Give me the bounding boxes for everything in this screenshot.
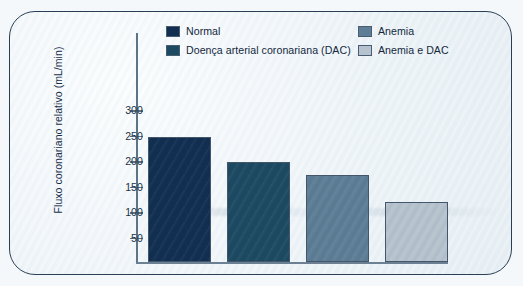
y-axis-title-label: Fluxo coronariano relativo (mL/min) xyxy=(52,30,64,230)
x-axis-line xyxy=(136,262,448,264)
bar-3 xyxy=(306,175,369,262)
legend-label: Doença arterial coronariana (DAC) xyxy=(186,45,351,56)
y-tick-label: 100 xyxy=(109,207,143,217)
bar-2 xyxy=(227,162,290,262)
bar-texture xyxy=(228,163,289,261)
legend-swatch-icon xyxy=(358,26,372,37)
y-tick-label-row: 150 xyxy=(88,182,143,194)
y-axis-title: Fluxo coronariano relativo (mL/min) xyxy=(52,30,72,230)
bar-texture xyxy=(307,176,368,261)
legend-swatch-icon xyxy=(358,45,372,56)
legend-item-1: Normal xyxy=(166,26,220,37)
y-tick-label-row: 100 xyxy=(88,207,143,219)
y-tick-label-row: 300 xyxy=(88,105,143,117)
legend-label: Normal xyxy=(186,26,220,37)
legend-label: Anemia xyxy=(378,26,414,37)
y-axis-line xyxy=(136,33,138,264)
y-tick-label-row: 250 xyxy=(88,131,143,143)
y-tick-label: 300 xyxy=(109,105,143,115)
y-tick-label-row: 200 xyxy=(88,156,143,168)
legend-swatch-icon xyxy=(166,45,180,56)
bar-1 xyxy=(148,137,211,263)
bar-texture xyxy=(149,138,210,262)
bar-texture xyxy=(386,203,447,261)
bar-4 xyxy=(385,202,448,262)
y-tick-label: 50 xyxy=(109,233,143,243)
legend-swatch-icon xyxy=(166,26,180,37)
legend-item-2: Doença arterial coronariana (DAC) xyxy=(166,45,351,56)
y-tick-label: 250 xyxy=(109,131,143,141)
y-tick-label: 200 xyxy=(109,156,143,166)
bar-chart: Fluxo coronariano relativo (mL/min) 3002… xyxy=(0,0,523,286)
legend-item-4: Anemia e DAC xyxy=(358,45,449,56)
legend-label: Anemia e DAC xyxy=(378,45,449,56)
legend-item-3: Anemia xyxy=(358,26,414,37)
figure-container: Fluxo coronariano relativo (mL/min) 3002… xyxy=(0,0,523,286)
y-tick-label-row: 50 xyxy=(88,233,143,245)
y-tick-label: 150 xyxy=(109,182,143,192)
